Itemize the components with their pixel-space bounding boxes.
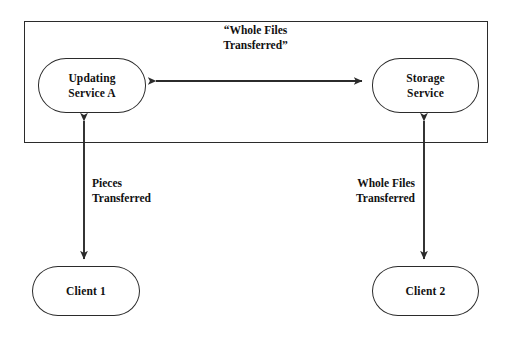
- node-updating-service[interactable]: Updating Service A: [38, 58, 146, 113]
- diagram-canvas: “Whole Files Transferred” Pieces Transfe…: [0, 0, 511, 339]
- node-storage-service-line2: Service: [407, 86, 444, 100]
- node-updating-service-line1: Updating: [68, 71, 115, 85]
- node-client-1[interactable]: Client 1: [32, 266, 140, 316]
- node-client-2-label: Client 2: [406, 284, 446, 298]
- node-storage-service-line1: Storage: [406, 71, 445, 85]
- connector-label-pieces-transferred: Pieces Transferred: [92, 176, 151, 205]
- connector-label-whole-files-transferred: Whole Files Transferred: [258, 176, 415, 205]
- connector-label-whole-files-top: “Whole Files Transferred”: [0, 23, 511, 52]
- node-updating-service-line2: Service A: [68, 86, 116, 100]
- node-client-2[interactable]: Client 2: [372, 266, 479, 316]
- node-storage-service[interactable]: Storage Service: [372, 58, 479, 113]
- node-client-1-label: Client 1: [66, 284, 106, 298]
